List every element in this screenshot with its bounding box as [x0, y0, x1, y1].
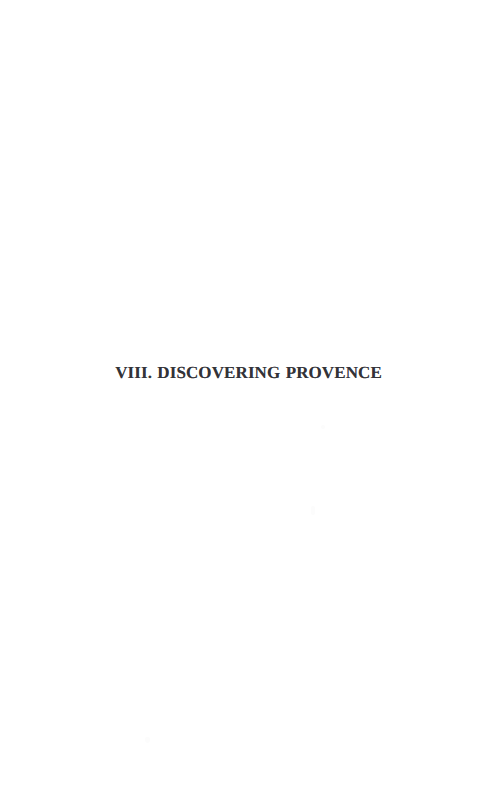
- scanned-page: VIII. DISCOVERING PROVENCE: [0, 0, 497, 811]
- scan-speck-artifact: [311, 506, 315, 515]
- scan-speck-artifact: [145, 737, 150, 743]
- scan-speck-artifact: [321, 425, 325, 429]
- chapter-heading: VIII. DISCOVERING PROVENCE: [0, 363, 497, 383]
- chapter-heading-text: VIII. DISCOVERING PROVENCE: [115, 363, 382, 383]
